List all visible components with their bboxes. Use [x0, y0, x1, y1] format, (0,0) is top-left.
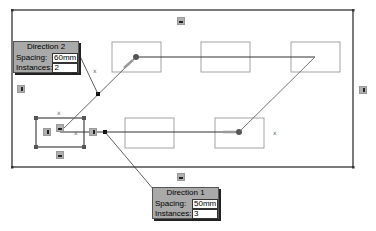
direction2-spacing-label: Spacing: — [16, 54, 52, 62]
horizontal-relation-icon[interactable] — [56, 151, 64, 159]
vertical-relation-icon[interactable] — [43, 128, 51, 136]
direction2-spacing-input[interactable]: 60mm — [52, 53, 78, 63]
direction1-spacing-input[interactable]: 50mm — [192, 199, 218, 209]
direction1-callout: Direction 1 Spacing: 50mm Instances: 3 — [152, 187, 219, 219]
vertical-relation-icon[interactable] — [17, 85, 25, 93]
vertical-relation-icon[interactable] — [89, 128, 97, 136]
direction1-spacing-label: Spacing: — [155, 200, 192, 208]
direction2-instances-label: Instances: — [16, 64, 52, 72]
direction2-instances-input[interactable]: 2 — [52, 63, 78, 73]
horizontal-relation-icon[interactable] — [177, 173, 185, 181]
vertical-relation-icon[interactable] — [359, 86, 367, 94]
cross-marker-icon: x — [93, 67, 97, 74]
direction2-title: Direction 2 — [14, 42, 78, 53]
direction2-endpoint — [133, 54, 139, 60]
outer-rectangle[interactable] — [11, 9, 355, 169]
direction1-instances-input[interactable]: 3 — [192, 209, 218, 219]
cross-marker-icon: x — [74, 129, 78, 136]
cross-marker-icon: x — [273, 129, 277, 136]
direction2-callout: Direction 2 Spacing: 60mm Instances: 2 — [13, 41, 79, 73]
direction1-leader — [105, 132, 154, 190]
horizontal-relation-icon[interactable] — [56, 124, 64, 132]
direction2-line[interactable] — [60, 54, 315, 132]
horizontal-relation-icon[interactable] — [177, 17, 185, 25]
instance-rect — [125, 118, 174, 148]
direction1-title: Direction 1 — [153, 188, 218, 199]
cross-marker-icon: x — [57, 109, 61, 116]
direction1-instances-label: Instances: — [155, 210, 192, 218]
